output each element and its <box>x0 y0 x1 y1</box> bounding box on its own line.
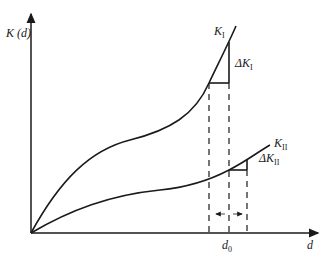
d0-label: d0 <box>222 238 232 254</box>
y-axis-label: K (d) <box>6 26 31 41</box>
k2-label: KII <box>274 136 287 152</box>
diagram-canvas <box>0 0 327 260</box>
curve-k1 <box>31 26 236 233</box>
x-axis-label: d <box>307 238 313 253</box>
delta-k1-label: ΔKI <box>235 56 253 72</box>
k1-label: KI <box>214 24 225 40</box>
delta-k2-label: ΔKII <box>259 151 279 167</box>
curve-k2 <box>31 145 270 233</box>
